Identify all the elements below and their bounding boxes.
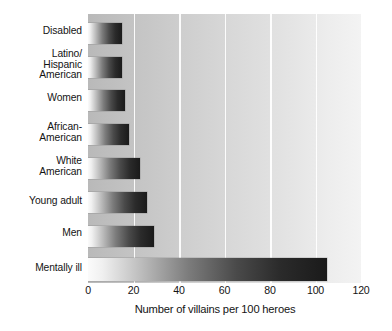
x-tick-100: 100 — [307, 284, 324, 297]
x-tick-120: 120 — [352, 284, 369, 297]
bar-women — [88, 90, 125, 111]
y-axis-label-white-american: White American — [0, 156, 82, 177]
x-tick-60: 60 — [219, 284, 230, 297]
bar-disabled — [88, 23, 122, 44]
y-axis-label-women: Women — [0, 93, 82, 104]
y-axis-category-labels: Disabled Latino/ Hispanic American Women… — [0, 14, 86, 283]
gridline-60 — [225, 14, 227, 283]
x-tick-80: 80 — [264, 284, 275, 297]
y-axis-label-african-american: African- American — [0, 122, 82, 143]
x-tick-0: 0 — [85, 284, 91, 297]
bar-men — [88, 226, 154, 247]
gridline-80 — [270, 14, 272, 283]
bar-mentally-ill — [88, 258, 327, 281]
x-tick-40: 40 — [173, 284, 184, 297]
bar-african-american — [88, 124, 129, 145]
x-axis-title: Number of villains per 100 heroes — [0, 303, 392, 315]
y-axis-label-young-adult: Young adult — [0, 196, 82, 207]
y-axis-label-mentally-ill: Mentally ill — [0, 263, 82, 274]
bar-chart: Disabled Latino/ Hispanic American Women… — [0, 0, 392, 331]
x-tick-20: 20 — [128, 284, 139, 297]
gridline-100 — [316, 14, 318, 283]
y-axis-label-disabled: Disabled — [0, 26, 82, 37]
y-axis-label-latino-hispanic-american: Latino/ Hispanic American — [0, 49, 82, 81]
bar-latino-hispanic-american — [88, 57, 122, 78]
y-axis-label-men: Men — [0, 228, 82, 239]
bar-white-american — [88, 158, 140, 179]
plot-area — [88, 14, 361, 283]
gridline-40 — [179, 14, 181, 283]
bar-young-adult — [88, 192, 147, 213]
x-axis-tick-labels: 0 20 40 60 80 100 120 — [88, 284, 361, 300]
